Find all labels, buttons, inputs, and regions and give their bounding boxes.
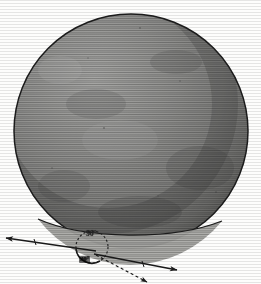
engraving-figure: 90° 30°	[0, 0, 261, 284]
angle-label-30: 30°	[79, 256, 90, 263]
sphere-group	[0, 0, 248, 248]
angle-label-90: 90°	[86, 230, 96, 238]
figure-canvas	[0, 0, 261, 284]
